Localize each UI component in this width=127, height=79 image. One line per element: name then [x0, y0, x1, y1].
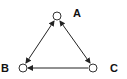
- node-a-label: A: [73, 7, 81, 19]
- node-b: [19, 64, 27, 72]
- edge-a-c: [60, 21, 90, 63]
- node-c-label: C: [110, 62, 118, 74]
- graph-canvas: A B C: [0, 0, 127, 79]
- node-b-label: B: [1, 62, 9, 74]
- node-c: [89, 64, 97, 72]
- node-a: [53, 12, 61, 20]
- edge-a-b: [26, 21, 54, 63]
